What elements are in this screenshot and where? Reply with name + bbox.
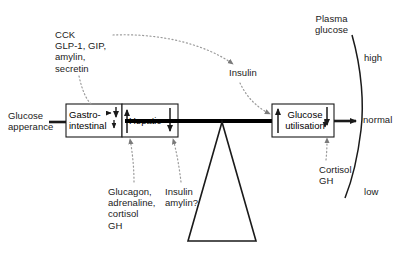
scale-tick-normal: normal	[363, 114, 392, 125]
plasma-glucose-title: Plasma glucose	[315, 13, 348, 35]
glucagon-to-hepatic-dotted-arrow	[130, 139, 134, 182]
scale-tick-high: high	[364, 52, 382, 63]
hepatic-label: Hepatic	[129, 116, 171, 127]
cortisol-gh-to-utilisation-dotted-arrow	[326, 138, 327, 160]
diagram-canvas: Glucose apperance CCK GLP-1, GIP, amylin…	[0, 0, 409, 258]
counterregulatory-hormones-label: Glucagon, adrenaline, cortisol GH	[108, 186, 156, 231]
scale-tick-low: low	[364, 186, 378, 197]
glucose-utilisation-label: Glucose utilisation	[280, 110, 330, 131]
insulin-amylin-to-hepatic-dotted-arrow	[173, 139, 181, 182]
insulin-amylin-label: Insulin amylin?	[165, 186, 198, 208]
cortisol-gh-label: Cortisol GH	[319, 164, 352, 186]
incretin-to-insulin-dotted-arrow	[113, 35, 233, 64]
fulcrum-triangle	[188, 122, 256, 241]
glucose-appearance-label: Glucose apperance	[8, 110, 53, 132]
insulin-to-utilisation-dotted-arrow	[240, 83, 270, 114]
incretin-hormones-label: CCK GLP-1, GIP, amylin, secretin	[55, 29, 106, 74]
insulin-label: Insulin	[229, 67, 257, 78]
gastro-intestinal-label: Gastro- intestinal	[69, 110, 117, 131]
incretin-to-gi-dotted-arrow	[79, 76, 91, 104]
